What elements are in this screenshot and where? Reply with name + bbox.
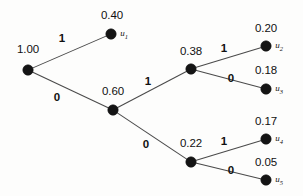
node-probability-label: 0.60 [102,86,124,98]
leaf-node-name: u5 [275,175,283,186]
edge-label: 1 [221,43,227,55]
leaf-name-subscript: 2 [280,45,283,52]
tree-node [186,64,196,74]
edge-label: 0 [143,139,149,151]
tree-edge [32,36,106,68]
leaf-name-subscript: 3 [280,88,283,95]
node-probability-label: 1.00 [17,44,39,56]
leaf-node-name: u1 [120,29,128,40]
tree-node [261,175,271,185]
tree-node [186,157,196,167]
node-probability-label: 0.20 [255,23,277,35]
edge-label: 1 [145,76,151,88]
node-probability-label: 0.38 [180,46,202,58]
leaf-node-name: u4 [275,134,283,145]
tree-edge [32,72,108,108]
leaf-name-subscript: 4 [280,138,283,145]
edge-label: 0 [228,73,234,85]
tree-edge [117,113,187,160]
tree-edge [195,47,261,67]
tree-node [108,105,118,115]
edge-label: 1 [221,136,227,148]
nodes-group [23,29,271,185]
edge-label: 0 [54,92,60,104]
probability-tree-figure: 101010101.000.40u10.600.380.20u20.18u30.… [0,0,303,196]
leaf-node-name: u2 [275,41,283,52]
tree-edge [117,71,187,108]
tree-node [261,41,271,51]
tree-node [261,84,271,94]
leaf-name-subscript: 5 [280,179,283,186]
tree-node [23,65,33,75]
edge-label: 1 [59,33,65,45]
tree-node [106,29,116,39]
node-probability-label: 0.05 [255,157,277,169]
node-probability-label: 0.17 [255,116,277,128]
leaf-node-name: u3 [275,84,283,95]
tree-edge [195,140,261,160]
node-probability-label: 0.22 [180,138,202,150]
tree-node [261,134,271,144]
node-probability-label: 0.40 [101,10,123,22]
edges-group [32,36,261,179]
leaf-name-subscript: 1 [125,33,128,40]
edge-label: 0 [228,165,234,177]
node-probability-label: 0.18 [255,65,277,77]
